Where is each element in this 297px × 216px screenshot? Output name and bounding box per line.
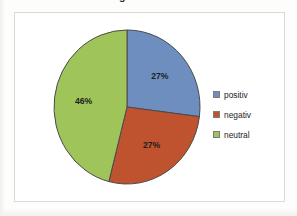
caption-text: da werden als neutral gewertet. (11, 0, 164, 2)
legend-swatch-negativ-icon (213, 111, 220, 118)
pie-label-positiv: 27% (151, 71, 169, 81)
legend-swatch-neutral-icon (213, 131, 220, 138)
chart-legend: positiv negativ neutral (213, 86, 281, 146)
scanned-page: da werden als neutral gewertet. 27%27%46… (0, 0, 297, 216)
scan-edge-bottom (0, 208, 297, 216)
pie-label-neutral: 46% (75, 96, 93, 106)
legend-label-negativ: negativ (224, 110, 251, 120)
legend-item-negativ[interactable]: negativ (213, 106, 281, 123)
legend-label-positiv: positiv (224, 90, 248, 100)
scan-edge-left (0, 0, 5, 216)
caption-strip: da werden als neutral gewertet. (0, 0, 297, 7)
pie-label-negativ: 27% (143, 140, 161, 150)
pie-slices (54, 30, 200, 184)
legend-swatch-positiv-icon (213, 91, 220, 98)
legend-item-positiv[interactable]: positiv (213, 86, 281, 103)
legend-item-neutral[interactable]: neutral (213, 126, 281, 143)
pie-chart: 27%27%46% (51, 27, 203, 187)
pie-chart-svg: 27%27%46% (51, 27, 203, 187)
chart-frame: 27%27%46% positiv negativ neutral (14, 12, 285, 202)
legend-label-neutral: neutral (224, 130, 250, 140)
